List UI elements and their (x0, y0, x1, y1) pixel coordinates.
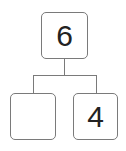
connector-left-drop (33, 75, 34, 93)
connector-right-drop (96, 75, 97, 93)
whole-box: 6 (41, 12, 88, 59)
part-box-left[interactable] (10, 93, 56, 140)
part-right-value: 4 (87, 102, 104, 132)
whole-value: 6 (56, 21, 73, 51)
connector-bar (33, 75, 97, 76)
connector-stem (64, 59, 65, 75)
part-box-right: 4 (73, 93, 118, 140)
